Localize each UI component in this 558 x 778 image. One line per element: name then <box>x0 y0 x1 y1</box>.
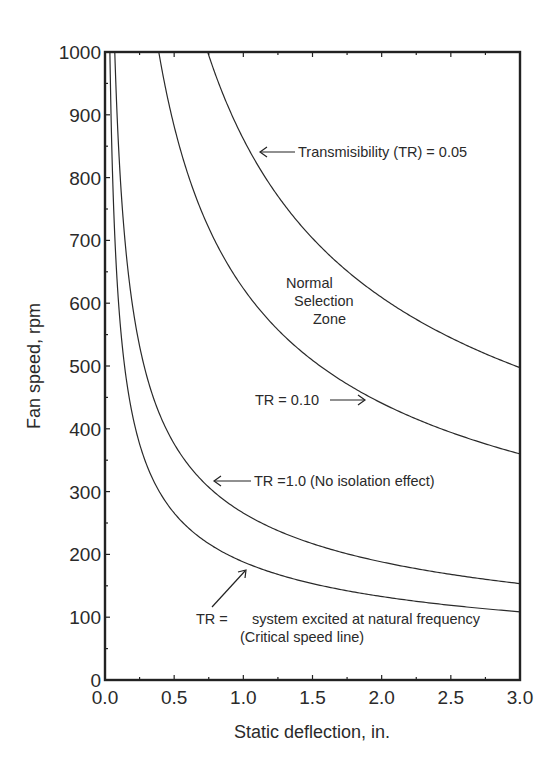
annotation-tr-1: TR =1.0 (No isolation effect) <box>214 473 435 489</box>
y-tick-label: 600 <box>69 293 101 314</box>
y-tick-label: 500 <box>69 356 101 377</box>
tick-labels: 0.00.51.01.52.02.53.00100200300400500600… <box>59 42 533 708</box>
y-tick-label: 900 <box>69 105 101 126</box>
annotation-text: Transmisibility (TR) = 0.05 <box>298 144 467 160</box>
curve-series-3 <box>208 52 520 368</box>
curves <box>110 52 520 612</box>
y-tick-label: 1000 <box>59 42 101 63</box>
annotation-text: Selection <box>294 293 354 309</box>
y-tick-label: 100 <box>69 607 101 628</box>
arrow-up-right-icon <box>212 571 245 607</box>
y-tick-label: 700 <box>69 230 101 251</box>
x-tick-label: 0.5 <box>161 687 187 708</box>
annotation-normal-selection-zone: Normal Selection Zone <box>286 275 354 327</box>
x-axis-title: Static deflection, in. <box>234 722 390 742</box>
curve-series-0 <box>110 52 520 612</box>
y-tick-label: 300 <box>69 482 101 503</box>
y-tick-label: 200 <box>69 544 101 565</box>
annotation-text: Zone <box>313 311 346 327</box>
x-tick-label: 2.5 <box>438 687 464 708</box>
annotation-tr-010: TR = 0.10 <box>255 392 365 408</box>
annotation-text: system excited at natural frequency <box>252 611 481 627</box>
annotation-critical-speed: TR = system excited at natural frequency… <box>196 570 481 645</box>
x-tick-label: 3.0 <box>507 687 533 708</box>
y-tick-label: 400 <box>69 419 101 440</box>
annotation-text: Normal <box>286 275 333 291</box>
x-tick-label: 1.0 <box>230 687 256 708</box>
annotation-text: (Critical speed line) <box>240 629 364 645</box>
annotation-text: TR = 0.10 <box>255 392 319 408</box>
x-tick-label: 1.5 <box>299 687 325 708</box>
y-axis-title: Fan speed, rpm <box>24 303 44 429</box>
y-tick-label: 800 <box>69 168 101 189</box>
chart: 0.00.51.01.52.02.53.00100200300400500600… <box>0 0 558 778</box>
annotation-text: TR = <box>196 611 228 627</box>
curve-series-2 <box>159 52 520 454</box>
x-tick-label: 2.0 <box>368 687 394 708</box>
annotation-tr-005: Transmisibility (TR) = 0.05 <box>260 144 467 160</box>
y-tick-label: 0 <box>90 670 101 691</box>
annotation-text: TR =1.0 (No isolation effect) <box>254 473 435 489</box>
